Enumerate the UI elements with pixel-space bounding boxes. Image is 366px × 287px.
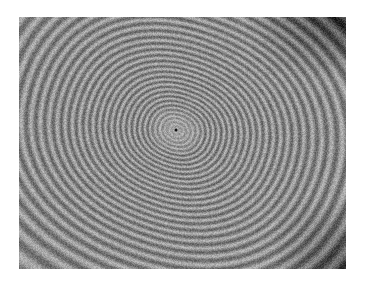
interference-fringe-photo [19, 17, 346, 269]
